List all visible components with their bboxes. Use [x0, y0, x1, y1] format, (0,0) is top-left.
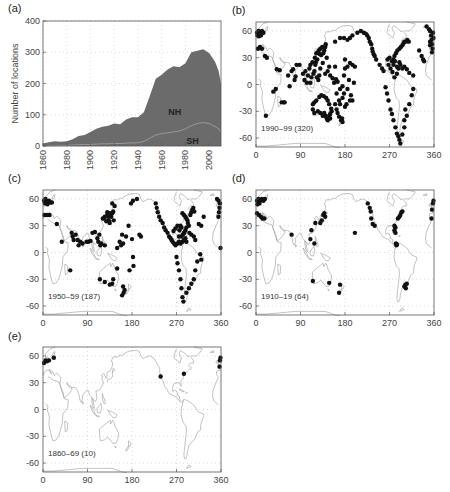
y-tick-label: 0 — [247, 248, 252, 258]
station-point — [50, 200, 54, 204]
station-point — [121, 284, 125, 288]
station-point — [391, 118, 395, 122]
station-point — [271, 89, 275, 93]
station-point — [395, 242, 399, 246]
station-point — [160, 221, 164, 225]
station-point — [333, 102, 337, 106]
station-point — [127, 268, 131, 272]
x-tick-label: 180 — [124, 318, 139, 328]
station-point — [407, 39, 411, 43]
x-tick-label: 360 — [426, 150, 441, 160]
station-point — [71, 238, 75, 242]
station-point — [344, 102, 348, 106]
panel-label-e: (e) — [8, 330, 21, 342]
station-point — [333, 64, 337, 68]
station-point — [108, 221, 112, 225]
station-point — [139, 234, 143, 238]
station-point — [257, 201, 261, 205]
station-point — [187, 224, 191, 228]
station-point — [282, 100, 286, 104]
station-point — [372, 224, 376, 228]
station-point — [311, 279, 315, 283]
station-point — [105, 210, 109, 214]
station-point — [411, 87, 415, 91]
x-tick-label: 270 — [169, 475, 184, 485]
panel-label-d: (d) — [232, 172, 245, 184]
x-tick-label: 180 — [337, 318, 352, 328]
decade-caption: 1860–69 (10) — [48, 449, 96, 458]
station-point — [342, 73, 346, 77]
station-point — [390, 112, 394, 116]
station-point — [321, 61, 325, 65]
decade-caption: 1910–19 (64) — [261, 292, 309, 301]
station-point — [333, 39, 337, 43]
y-tick-label: 60 — [242, 26, 252, 36]
x-tick-label: 0 — [40, 475, 45, 485]
station-point — [353, 231, 357, 235]
area-chart-svg: 0100200300400186018801900192019401960198… — [43, 21, 221, 146]
station-point — [347, 78, 351, 82]
area-chart-a: 0100200300400186018801900192019401960198… — [43, 21, 221, 146]
y-tick-label: 60 — [242, 194, 252, 204]
station-point — [126, 224, 130, 228]
station-point — [262, 216, 266, 220]
y-tick-label: 300 — [25, 47, 40, 57]
station-point — [97, 232, 101, 236]
station-point — [110, 282, 114, 286]
station-point — [131, 264, 135, 268]
nh-annotation: NH — [168, 107, 181, 117]
station-point — [198, 252, 202, 256]
y-tick-label: -60 — [26, 458, 39, 468]
station-point — [308, 237, 312, 241]
y-tick-label: 30 — [29, 221, 39, 231]
y-tick-label: 200 — [25, 79, 40, 89]
y-tick-label: 60 — [29, 351, 39, 361]
station-point — [131, 255, 135, 259]
x-tick-label: 1980 — [180, 150, 190, 170]
x-tick-label: 1900 — [85, 150, 95, 170]
x-tick-label: 2000 — [204, 150, 214, 170]
x-tick-label: 90 — [295, 150, 305, 160]
map-panel-b: -60-30030600901802703601990–99 (320) — [256, 22, 434, 147]
station-point — [158, 374, 162, 378]
station-point — [387, 56, 391, 60]
x-tick-label: 1880 — [62, 150, 72, 170]
station-point — [396, 66, 400, 70]
map-panel-e: -60-30030600901802703601860–69 (10) — [43, 347, 221, 472]
station-point — [189, 282, 193, 286]
station-point — [111, 209, 115, 213]
x-tick-label: 360 — [213, 318, 228, 328]
station-point — [430, 207, 434, 211]
station-point — [348, 98, 352, 102]
station-point — [431, 31, 435, 35]
station-point — [345, 64, 349, 68]
station-point — [386, 98, 390, 102]
station-point — [124, 234, 128, 238]
station-point — [115, 246, 119, 250]
x-tick-label: 90 — [295, 318, 305, 328]
station-point — [265, 56, 269, 60]
station-point — [377, 63, 381, 67]
station-point — [309, 228, 313, 232]
station-point — [130, 237, 134, 241]
station-point — [264, 114, 268, 118]
station-point — [392, 75, 396, 79]
station-point — [431, 36, 435, 40]
decade-caption: 1990–99 (320) — [261, 124, 313, 133]
station-point — [325, 69, 329, 73]
station-point — [349, 93, 353, 97]
station-point — [155, 206, 159, 210]
station-point — [417, 48, 421, 52]
station-point — [402, 125, 406, 129]
station-point — [184, 240, 188, 244]
station-point — [369, 42, 373, 46]
y-tick-label: 400 — [25, 16, 40, 26]
station-point — [263, 197, 267, 201]
station-point — [400, 209, 404, 213]
station-point — [400, 132, 404, 136]
station-point — [297, 63, 301, 67]
station-point — [218, 246, 222, 250]
station-point — [422, 59, 426, 63]
station-point — [47, 358, 51, 362]
nh-area — [43, 49, 221, 146]
